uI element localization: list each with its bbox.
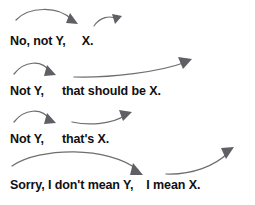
arc-arrow-up-right-medium bbox=[72, 110, 132, 124]
arc-arrow-up-right-small bbox=[94, 14, 122, 26]
row-1-reparandum: No, not Y, bbox=[10, 34, 66, 48]
arc-arrow-down-right bbox=[14, 63, 56, 76]
row-2-text: Not Y,that should be X. bbox=[0, 84, 255, 98]
diagram-row-4: Sorry, I don't mean Y,I mean X. bbox=[0, 144, 255, 194]
diagram-row-1: No, not Y,X. bbox=[0, 0, 255, 50]
row-4-reparandum: Sorry, I don't mean Y, bbox=[10, 178, 133, 192]
arc-arrow-down-right-long bbox=[12, 152, 143, 175]
diagram-row-2: Not Y,that should be X. bbox=[0, 50, 255, 100]
row-1-text: No, not Y,X. bbox=[0, 34, 255, 48]
arc-arrow-up-right-steep bbox=[166, 147, 234, 174]
arc-arrow-down-right bbox=[16, 9, 78, 24]
diagram-row-3: Not Y,that's X. bbox=[0, 98, 255, 148]
row-4-repair: I mean X. bbox=[146, 178, 200, 192]
arc-arrow-down-right bbox=[14, 111, 56, 124]
arc-arrow-up-right-long bbox=[74, 57, 192, 77]
row-4-text: Sorry, I don't mean Y,I mean X. bbox=[0, 178, 255, 192]
row-1-repair: X. bbox=[82, 34, 94, 48]
row-2-reparandum: Not Y, bbox=[10, 84, 44, 98]
row-2-repair: that should be X. bbox=[62, 84, 161, 98]
diagram-canvas: No, not Y,X. Not Y,that should be X. bbox=[0, 0, 255, 205]
